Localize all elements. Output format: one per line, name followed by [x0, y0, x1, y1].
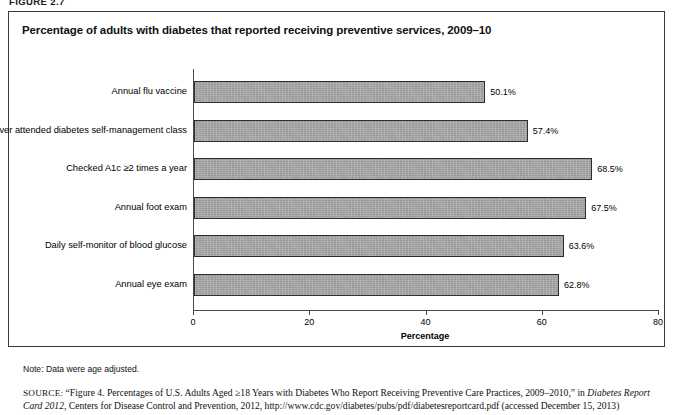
bar — [194, 274, 559, 296]
chart-note: Note: Data were age adjusted. — [23, 364, 139, 374]
bar-value-label: 50.1% — [490, 87, 516, 97]
y-axis-category-label: Checked A1c ≥2 times a year — [66, 163, 187, 173]
figure-frame: Percentage of adults with diabetes that … — [8, 11, 665, 347]
x-axis-tick-label: 80 — [653, 317, 663, 327]
y-axis-category-label: Daily self-monitor of blood glucose — [45, 240, 187, 250]
x-axis-tick-label: 20 — [304, 317, 314, 327]
bar-value-label: 57.4% — [533, 126, 559, 136]
y-axis-category-label: Annual foot exam — [115, 202, 187, 212]
source-prefix: SOURCE: — [23, 388, 63, 398]
bar-value-label: 63.6% — [569, 241, 595, 251]
y-axis-category-label: Annual eye exam — [115, 279, 187, 289]
x-axis-tick — [426, 310, 427, 315]
page-title: Percentage of adults with diabetes that … — [22, 24, 491, 36]
bar — [194, 81, 485, 103]
x-axis-tick — [193, 310, 194, 315]
x-axis-tick — [309, 310, 310, 315]
chart-source: SOURCE: “Figure 4. Percentages of U.S. A… — [23, 387, 671, 411]
x-axis-title: Percentage — [401, 331, 450, 341]
bar — [194, 197, 586, 219]
x-axis-tick-label: 60 — [537, 317, 547, 327]
source-text-part2: , Centers for Disease Control and Preven… — [64, 400, 619, 411]
y-axis-category-label: Annual flu vaccine — [112, 86, 187, 96]
bar — [194, 120, 528, 142]
bar-chart-plot-area: 020406080 Annual flu vaccine50.1%Ever at… — [193, 69, 658, 321]
y-axis-category-label: Ever attended diabetes self-management c… — [0, 125, 187, 135]
bar — [194, 158, 592, 180]
bar-value-label: 68.5% — [597, 164, 623, 174]
source-text-part1: “Figure 4. Percentages of U.S. Adults Ag… — [63, 387, 587, 398]
bar-value-label: 62.8% — [564, 280, 590, 290]
x-axis-tick-label: 40 — [420, 317, 430, 327]
x-axis-tick — [542, 310, 543, 315]
bar-value-label: 67.5% — [591, 203, 617, 213]
x-axis-tick-label: 0 — [190, 317, 195, 327]
bar — [194, 235, 564, 257]
x-axis-tick — [658, 310, 659, 315]
figure-number-label: FIGURE 2.7 — [9, 0, 65, 6]
